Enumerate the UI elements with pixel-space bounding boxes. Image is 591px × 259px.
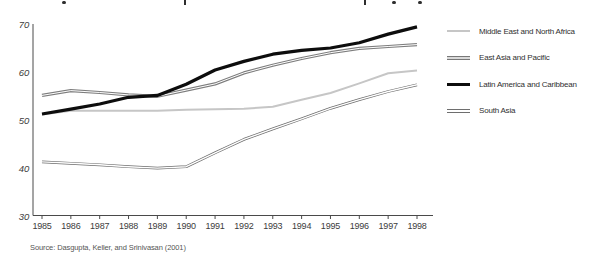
- y-tick-label: 30: [19, 211, 30, 222]
- y-tick-label: 50: [19, 115, 30, 126]
- legend-item: Middle East and North Africa: [447, 25, 587, 37]
- x-tick-label: 1991: [205, 221, 224, 231]
- x-tick-label: 1992: [234, 221, 253, 231]
- legend-label: Middle East and North Africa: [479, 27, 575, 36]
- x-tick-label: 1986: [61, 221, 80, 231]
- x-tick-label: 1988: [119, 221, 138, 231]
- x-tick-label: 1993: [263, 221, 282, 231]
- x-tick-label: 1997: [379, 221, 398, 231]
- chart-legend: Middle East and North AfricaEast Asia an…: [447, 25, 587, 131]
- x-tick-label: 1996: [350, 221, 369, 231]
- x-tick-label: 1989: [148, 221, 167, 231]
- axes: [33, 24, 433, 216]
- legend-label: East Asia and Pacific: [479, 53, 550, 62]
- y-tick-label: 60: [19, 67, 30, 78]
- legend-label: South Asia: [479, 106, 515, 115]
- legend-swatch-icon: [447, 109, 470, 113]
- x-tick-label: 1995: [321, 221, 340, 231]
- x-tick-label: 1990: [177, 221, 196, 231]
- x-tick-label: 1998: [407, 221, 426, 231]
- legend-swatch-icon: [447, 30, 470, 32]
- legend-swatch-icon: [447, 83, 470, 86]
- series-line-latin-america-and-caribbean: [42, 27, 417, 114]
- series-line-east-asia-and-pacific: [42, 45, 417, 97]
- legend-item: Latin America and Caribbean: [447, 78, 587, 90]
- legend-item: South Asia: [447, 105, 587, 117]
- series-line-east-asia-and-pacific: [42, 45, 417, 97]
- legend-swatch-icon: [447, 56, 470, 60]
- source-note: Source: Dasgupta, Keller, and Srinivasan…: [30, 243, 186, 252]
- x-tick-label: 1994: [292, 221, 311, 231]
- x-tick-label: 1987: [90, 221, 109, 231]
- legend-label: Latin America and Caribbean: [479, 80, 577, 89]
- y-tick-label: 40: [19, 163, 30, 174]
- series-line-south-asia: [42, 85, 417, 168]
- y-tick-label: 70: [19, 19, 30, 30]
- series-line-south-asia: [42, 85, 417, 168]
- x-tick-label: 1985: [32, 221, 51, 231]
- legend-item: East Asia and Pacific: [447, 52, 587, 64]
